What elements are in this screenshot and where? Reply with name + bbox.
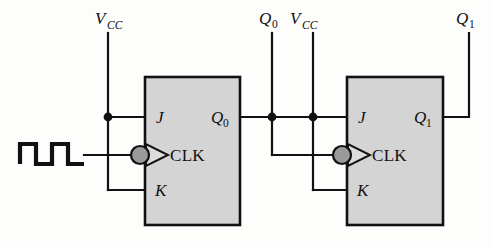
q0-top-sub: 0 [272,18,278,30]
vcc-left-sub: CC [107,19,123,31]
ff1-clk-inversion-bubble-icon [333,146,351,164]
circuit-schematic: J K CLK Q 0 J K CLK Q 1 V CC Q 0 [0,0,491,247]
junction-vcc-right [309,113,318,122]
vcc-right-sub: CC [302,19,318,31]
q0-top-base: Q [259,9,271,28]
ff0-clk-inversion-bubble-icon [131,146,149,164]
ff1-k-label: K [356,181,370,200]
junction-vcc-left [104,113,113,122]
schematic-canvas: J K CLK Q 0 J K CLK Q 1 V CC Q 0 [0,0,491,247]
ff1-q-sub: 1 [426,117,432,129]
ff0-q-label: Q [211,108,223,127]
junction-q0 [268,113,277,122]
ff0-clk-label: CLK [170,146,205,165]
ff1-q-label: Q [414,108,426,127]
ff0-q-sub: 0 [223,117,229,129]
q1-top-base: Q [456,9,468,28]
clock-waveform [20,144,84,164]
wire-q1-output [443,33,469,117]
ff1-clk-label: CLK [372,146,407,165]
q1-top-sub: 1 [469,18,475,30]
ff0-k-label: K [154,181,168,200]
